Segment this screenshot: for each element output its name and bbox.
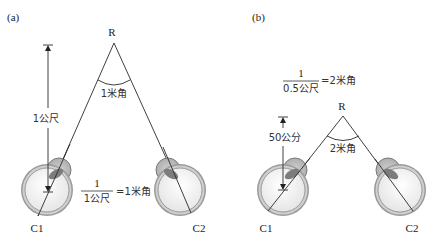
svg-text:1: 1	[298, 67, 304, 79]
angle-arc	[327, 136, 359, 141]
right-eye-icon	[374, 158, 426, 216]
panel-a: (a) R 1米角 1公尺 1 1公尺 =1米角 C1	[7, 11, 206, 234]
svg-text:1公尺: 1公尺	[84, 193, 110, 204]
panel-label: (a)	[7, 11, 20, 24]
right-eye-label: C2	[193, 222, 206, 234]
angle-label: 2米角	[330, 142, 356, 154]
apex-label: R	[108, 26, 116, 38]
distance-label: 1公尺	[33, 113, 59, 124]
right-eye-label: C2	[406, 222, 419, 234]
angle-label: 1米角	[101, 87, 127, 99]
svg-text:=2米角: =2米角	[321, 74, 356, 86]
left-eye-label: C1	[260, 222, 273, 234]
distance-label: 50公分	[269, 132, 302, 143]
formula: 1 1公尺 =1米角	[81, 177, 151, 204]
svg-text:0.5公尺: 0.5公尺	[283, 83, 319, 94]
panel-label: (b)	[252, 11, 265, 24]
panel-b: (b) 1 0.5公尺 =2米角 R 2米角 50公分 C1 C	[252, 11, 426, 234]
left-eye-label: C1	[31, 222, 44, 234]
formula: 1 0.5公尺 =2米角	[283, 67, 356, 94]
svg-text:1: 1	[94, 177, 100, 189]
angle-arc	[98, 80, 130, 85]
convergence-diagram: (a) R 1米角 1公尺 1 1公尺 =1米角 C1	[0, 0, 443, 246]
svg-text:=1米角: =1米角	[116, 185, 151, 197]
apex-label: R	[338, 100, 346, 112]
